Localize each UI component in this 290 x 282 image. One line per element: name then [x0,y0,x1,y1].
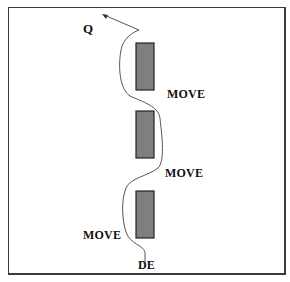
obstacle-top [136,43,154,90]
arrowhead-icon [102,14,108,19]
label-move-top: MOVE [167,88,205,100]
label-end-de: DE [138,259,155,271]
obstacle-middle [136,111,154,158]
label-move-bottom: MOVE [83,229,121,241]
label-start-q: Q [83,22,93,35]
label-move-middle: MOVE [165,167,203,179]
path-diagram [0,0,290,282]
obstacle-bottom [136,191,154,238]
